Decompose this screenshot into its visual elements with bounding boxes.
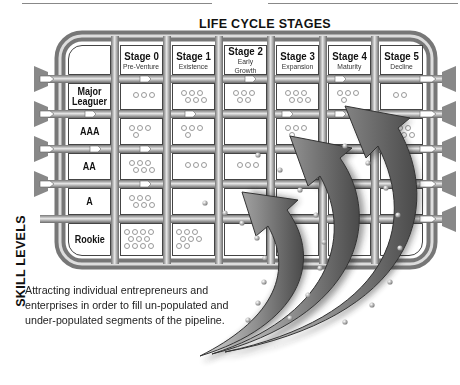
caption-text: Attracting individual entrepreneurs and … — [25, 283, 248, 328]
